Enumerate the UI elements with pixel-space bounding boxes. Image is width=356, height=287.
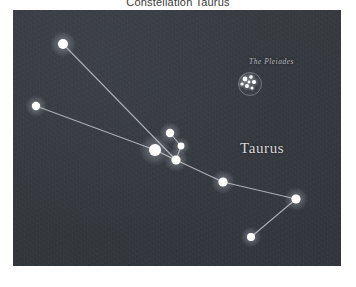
star-xi-tauri[interactable] bbox=[247, 233, 255, 241]
star-aldebaran[interactable] bbox=[149, 144, 161, 156]
taurus-label: Taurus bbox=[240, 140, 284, 157]
pleiades-cluster-ring bbox=[238, 72, 262, 96]
star-epsilon-tauri[interactable] bbox=[166, 129, 174, 137]
sky-panel: The Pleiades Taurus bbox=[13, 10, 341, 266]
star-zeta-tauri[interactable] bbox=[32, 102, 40, 110]
page-title: Constellation Taurus bbox=[0, 0, 356, 9]
star-layer bbox=[13, 10, 341, 266]
star-lambda-tauri[interactable] bbox=[291, 194, 300, 203]
star-elnath[interactable] bbox=[58, 39, 68, 49]
pleiades-label: The Pleiades bbox=[249, 57, 294, 66]
constellation-figure: Constellation Taurus The Pleiades Taurus bbox=[0, 0, 356, 287]
star-theta-tauri[interactable] bbox=[218, 177, 227, 186]
star-gamma-tauri[interactable] bbox=[171, 155, 180, 164]
